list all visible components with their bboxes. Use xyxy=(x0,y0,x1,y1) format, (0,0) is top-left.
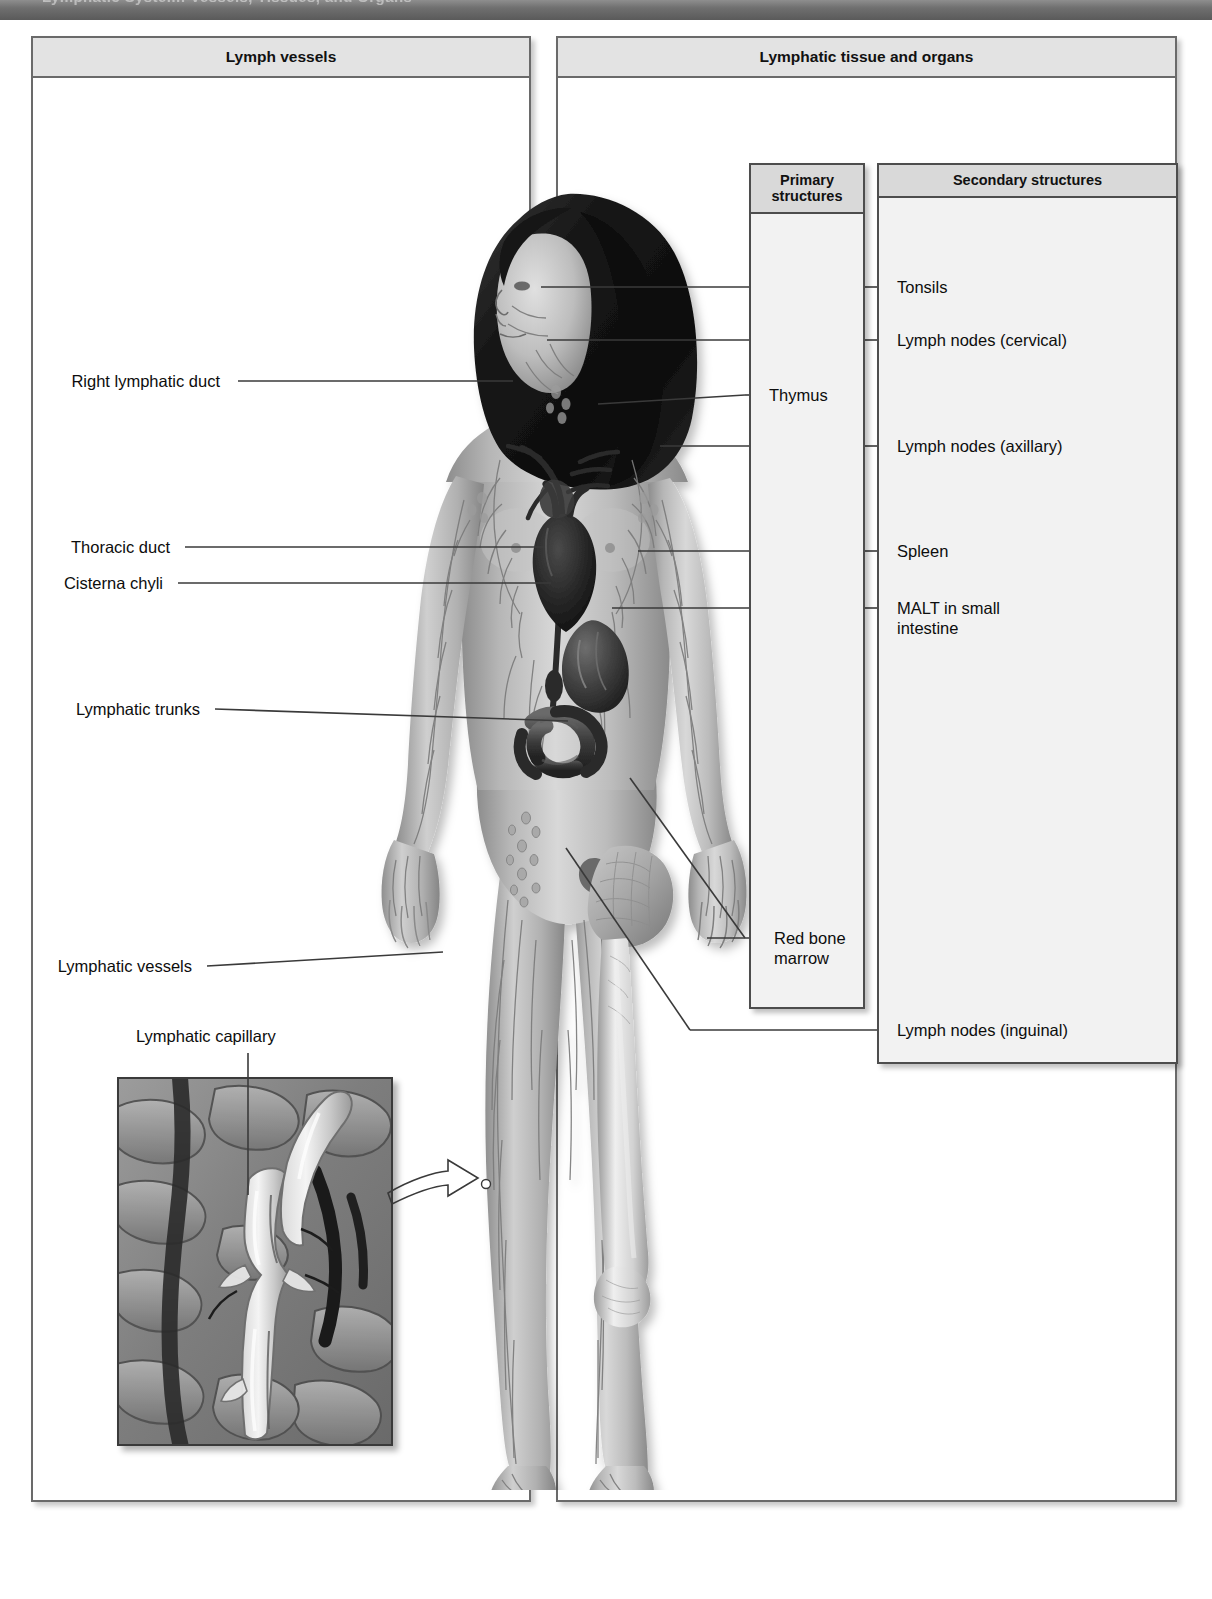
label-cisterna-chyli: Cisterna chyli xyxy=(20,573,163,593)
diagram-stage: Lymphatic System: Vessels, Tissues, and … xyxy=(0,0,1212,1599)
label-thoracic-duct: Thoracic duct xyxy=(20,537,170,557)
panel-lymph-vessels-title: Lymph vessels xyxy=(33,38,529,78)
box-primary-structures-title: Primary structures xyxy=(751,165,863,214)
label-lymphatic-trunks: Lymphatic trunks xyxy=(20,699,200,719)
clipped-running-head: Lymphatic System: Vessels, Tissues, and … xyxy=(42,0,412,5)
label-lymphatic-capillary: Lymphatic capillary xyxy=(136,1026,366,1046)
box-secondary-structures-title: Secondary structures xyxy=(879,165,1176,198)
label-thymus: Thymus xyxy=(769,385,889,405)
box-primary-structures: Primary structures xyxy=(749,163,865,1009)
lymphatic-capillary-inset-image xyxy=(117,1077,393,1446)
label-lymphatic-vessels: Lymphatic vessels xyxy=(20,956,192,976)
label-lymph-nodes-cervical: Lymph nodes (cervical) xyxy=(897,330,1177,350)
label-right-lymphatic-duct: Right lymphatic duct xyxy=(20,371,220,391)
label-red-bone-marrow: Red bone marrow xyxy=(774,928,884,968)
label-lymph-nodes-axillary: Lymph nodes (axillary) xyxy=(897,436,1177,456)
page-top-bar: Lymphatic System: Vessels, Tissues, and … xyxy=(0,0,1212,20)
label-tonsils: Tonsils xyxy=(897,277,1167,297)
label-spleen: Spleen xyxy=(897,541,1097,561)
label-malt-small-intestine: MALT in small intestine xyxy=(897,598,1097,638)
label-lymph-nodes-inguinal: Lymph nodes (inguinal) xyxy=(897,1020,1177,1040)
panel-lymphatic-tissue-organs-title: Lymphatic tissue and organs xyxy=(558,38,1175,78)
